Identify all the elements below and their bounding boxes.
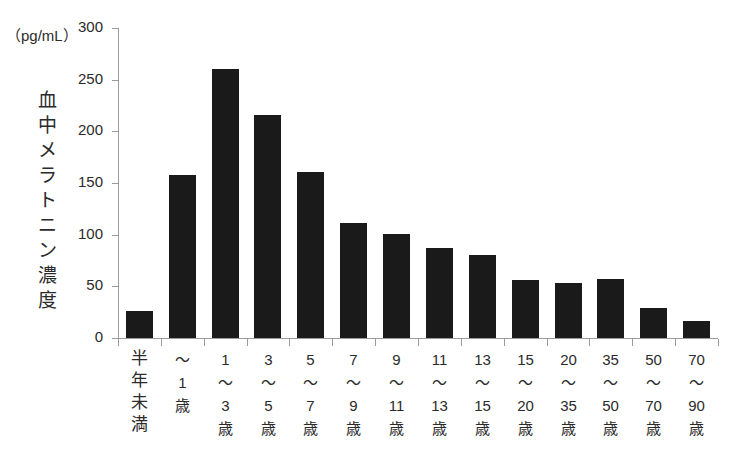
x-axis-category-label-line: 〜 [547,371,590,394]
x-axis-category-label-line: 歳 [161,394,204,417]
x-axis-category-label-line: 〜 [375,371,418,394]
x-axis-tick [461,339,462,346]
x-axis-tick [375,339,376,346]
bar [254,115,281,338]
x-axis-tick [332,339,333,346]
x-axis-category-label-line: 1 [161,371,204,394]
x-axis-category-label-line: 9 [332,394,375,417]
x-axis-category-label-line: 3 [247,348,290,371]
x-axis-category-label: 半年未満 [118,348,161,436]
y-axis-title-char: ニ [34,213,60,238]
x-axis-category-label-line: 年 [118,370,161,392]
x-axis-category-label-line: 11 [418,348,461,371]
y-axis-tick: 50 [112,286,118,287]
x-axis-tick [632,339,633,346]
x-axis-category-label-line: 3 [204,394,247,417]
x-axis-category-label-line: 〜 [675,371,718,394]
y-axis-tick: 150 [112,183,118,184]
x-axis-category-label: 5〜7歳 [289,348,332,440]
x-axis-category-label-line: 半 [118,348,161,370]
y-axis-tick-label: 50 [63,276,103,293]
x-axis-category-label-line: 〜 [289,371,332,394]
x-axis-category-label-line: 歳 [547,417,590,440]
x-axis-category-label-line: 11 [375,394,418,417]
melatonin-bar-chart: （pg/mL） 血中メラトニン濃度 300250200150100500 半年未… [0,0,731,461]
bar [512,280,539,338]
x-axis-tick [161,339,162,346]
x-axis-category-label-line: 歳 [375,417,418,440]
x-axis-category-label-line: 70 [632,394,675,417]
bar [212,69,239,338]
x-axis-category-label-line: 〜 [461,371,504,394]
bar [555,283,582,338]
x-axis-tick [589,339,590,346]
plot-area: 300250200150100500 [118,28,718,338]
y-axis-line [118,28,119,339]
x-axis-category-label-line: 5 [247,394,290,417]
x-axis-category-label-line: 歳 [461,417,504,440]
x-axis-category-label: 20〜35歳 [547,348,590,440]
x-axis-category-label-line: 歳 [418,417,461,440]
y-axis-title-char: ト [34,188,60,213]
x-axis-tick [118,339,119,346]
y-axis-tick: 100 [112,235,118,236]
x-axis-category-label-line: 13 [461,348,504,371]
x-axis-category-label: 1〜3歳 [204,348,247,440]
x-axis-tick [547,339,548,346]
x-axis-category-label-line: 70 [675,348,718,371]
x-axis-category-label: 70〜90歳 [675,348,718,440]
y-axis-title-char: メ [34,138,60,163]
y-axis-tick: 250 [112,80,118,81]
x-axis-category-label-line: 35 [589,348,632,371]
x-axis-category-label-line: 歳 [204,417,247,440]
x-axis-category-label-line: 20 [547,348,590,371]
bar [426,248,453,338]
x-axis-category-label-line: 50 [632,348,675,371]
x-axis-category-label-line: 未 [118,392,161,414]
x-axis-category-label-line: 歳 [504,417,547,440]
x-axis-category-label: 〜1歳 [161,348,204,417]
x-axis-category-label-line: 15 [461,394,504,417]
x-axis-category-label-line: 9 [375,348,418,371]
y-axis-title-char: 中 [34,113,60,138]
x-axis-tick [247,339,248,346]
x-axis-category-label-line: 〜 [504,371,547,394]
y-axis-tick-label: 100 [63,225,103,242]
x-axis-category-label-line: 歳 [632,417,675,440]
x-axis-category-label: 9〜11歳 [375,348,418,440]
y-axis-title-char: 血 [34,88,60,113]
y-axis-tick: 200 [112,131,118,132]
y-axis-title-char: 濃 [34,263,60,288]
y-axis-tick-label: 300 [63,18,103,35]
x-axis-category-label-line: 13 [418,394,461,417]
bar [469,255,496,338]
x-axis-category-label-line: 歳 [247,417,290,440]
y-axis-tick-label: 200 [63,121,103,138]
x-axis-category-label-line: 歳 [589,417,632,440]
x-axis-labels: 半年未満〜1歳1〜3歳3〜5歳5〜7歳7〜9歳9〜11歳11〜13歳13〜15歳… [118,348,718,458]
x-axis-category-label-line: 満 [118,414,161,436]
x-axis-category-label: 7〜9歳 [332,348,375,440]
bar [597,279,624,338]
x-axis-tick [718,339,719,346]
y-axis-title: 血中メラトニン濃度 [34,88,60,313]
bar [169,175,196,338]
x-axis-category-label-line: 歳 [675,417,718,440]
x-axis-tick [504,339,505,346]
x-axis-category-label: 35〜50歳 [589,348,632,440]
x-axis-category-label: 13〜15歳 [461,348,504,440]
bar [383,234,410,338]
x-axis-category-label-line: 15 [504,348,547,371]
x-axis-category-label-line: 50 [589,394,632,417]
y-axis-tick-label: 0 [63,328,103,345]
x-axis-category-label-line: 〜 [332,371,375,394]
y-axis-title-char: ラ [34,163,60,188]
x-axis-category-label: 50〜70歳 [632,348,675,440]
y-axis-title-char: ン [34,238,60,263]
x-axis-category-label-line: 90 [675,394,718,417]
x-axis-category-label-line: 1 [204,348,247,371]
x-axis-category-label-line: 〜 [204,371,247,394]
y-axis-title-char: 度 [34,288,60,313]
x-axis-category-label-line: 7 [332,348,375,371]
y-axis-tick-label: 150 [63,173,103,190]
